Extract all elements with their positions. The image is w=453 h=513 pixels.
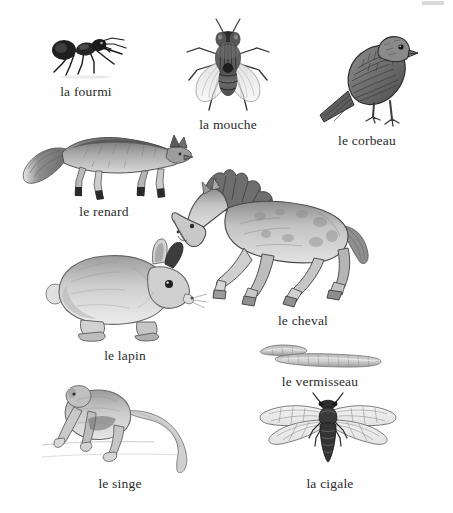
caption-crow: le corbeau: [338, 133, 396, 149]
figure-fly: [183, 18, 273, 116]
caption-worm: le vermisseau: [282, 374, 358, 390]
figure-monkey: [42, 385, 222, 473]
page-corner-mark: [422, 1, 444, 5]
caption-ant: la fourmi: [60, 84, 112, 100]
vocabulary-illustration-page: la fourmi: [0, 0, 453, 513]
caption-fox: le renard: [79, 204, 128, 220]
ant-illustration: [44, 28, 132, 80]
caption-fly: la mouche: [199, 117, 257, 133]
crow-illustration: [318, 33, 418, 131]
rabbit-illustration: [45, 238, 207, 343]
figure-rabbit: [45, 238, 207, 343]
worm-illustration: [258, 342, 384, 370]
caption-horse: le cheval: [278, 313, 328, 329]
caption-rabbit: le lapin: [104, 348, 146, 364]
fox-illustration: [18, 123, 193, 203]
figure-fox: [18, 123, 193, 203]
monkey-illustration: [42, 385, 222, 473]
caption-monkey: le singe: [98, 476, 141, 492]
figure-crow: [318, 33, 418, 131]
figure-cicada: [253, 392, 403, 472]
fly-illustration: [183, 18, 273, 116]
cicada-illustration: [253, 392, 403, 472]
figure-worm: [258, 342, 384, 370]
figure-ant: [44, 28, 132, 80]
caption-cicada: la cigale: [306, 476, 353, 492]
